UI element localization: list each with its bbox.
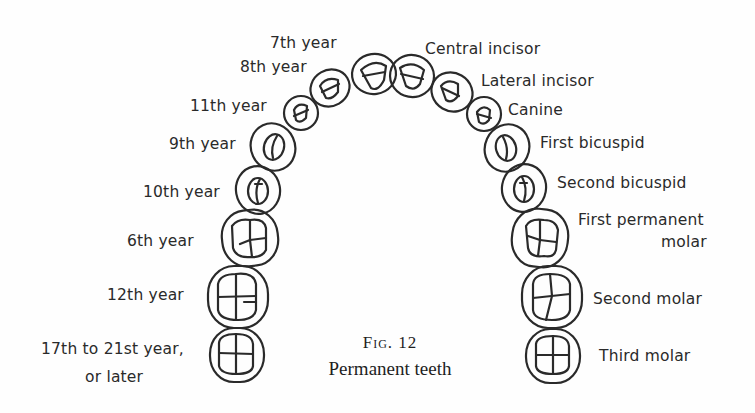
- label-second-molar: Second molar: [593, 290, 702, 308]
- tooth-right-second-bicuspid: [498, 161, 550, 216]
- label-second-bicuspid: Second bicuspid: [557, 174, 687, 192]
- label-first-bicuspid: First bicuspid: [540, 134, 645, 152]
- figure-number: Fig. 12: [330, 333, 450, 353]
- label-second-molar-age: 12th year: [107, 286, 184, 304]
- label-third-molar-age-line2: or later: [85, 368, 143, 386]
- label-third-molar: Third molar: [599, 347, 690, 365]
- tooth-left-first-molar: [219, 207, 281, 269]
- tooth-right-lateral-incisor: [424, 65, 479, 119]
- label-second-bicuspid-age: 10th year: [143, 183, 220, 201]
- tooth-right-second-molar: [522, 266, 582, 328]
- tooth-right-first-bicuspid: [477, 117, 537, 179]
- label-first-molar-age: 6th year: [127, 232, 194, 250]
- label-first-molar-line1: First permanent: [578, 211, 704, 229]
- label-first-molar-line2: molar: [661, 233, 707, 251]
- figure-caption: Permanent teeth: [310, 358, 470, 380]
- label-central-incisor: Central incisor: [425, 40, 540, 58]
- label-canine-age: 11th year: [190, 97, 267, 115]
- tooth-right-third-molar: [526, 329, 580, 383]
- label-canine: Canine: [508, 101, 563, 119]
- tooth-left-first-bicuspid: [243, 116, 303, 178]
- tooth-right-central-incisor: [387, 51, 438, 100]
- tooth-right-canine: [460, 90, 508, 138]
- label-first-bicuspid-age: 9th year: [169, 135, 236, 153]
- tooth-left-second-molar: [208, 266, 268, 328]
- label-lateral-incisor: Lateral incisor: [481, 72, 594, 90]
- label-lateral-incisor-age: 8th year: [240, 58, 307, 76]
- tooth-left-third-molar: [210, 328, 264, 382]
- label-third-molar-age-line1: 17th to 21st year,: [41, 340, 184, 358]
- label-central-incisor-age: 7th year: [270, 34, 337, 52]
- tooth-left-canine: [277, 89, 325, 137]
- tooth-right-first-molar: [509, 206, 571, 270]
- permanent-teeth-diagram: 7th year 8th year 11th year 9th year 10t…: [0, 0, 755, 413]
- tooth-left-lateral-incisor: [304, 62, 357, 113]
- tooth-left-central-incisor: [349, 51, 398, 97]
